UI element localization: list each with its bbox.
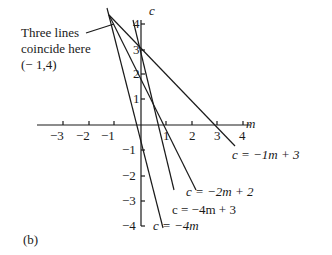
line-label-c-neg2m-plus2: c = −2m + 2: [186, 185, 253, 199]
y-axis-label: c: [149, 4, 155, 18]
line-label-c-neg4m: c = −4m: [153, 219, 199, 233]
y-tick-label: 2: [133, 67, 140, 81]
line-c-neg1m-plus3: [109, 15, 235, 146]
y-tick-label: −3: [122, 194, 136, 208]
y-tick-label: −2: [122, 169, 136, 183]
panel-label: (b): [23, 233, 38, 247]
x-tick-label: 3: [214, 129, 221, 143]
y-tick-label: 3: [133, 43, 140, 57]
annotation-leader: [86, 24, 114, 33]
y-tick-label: 4: [133, 17, 140, 31]
x-axis-label: m: [246, 117, 255, 131]
y-tick-label: 1: [133, 92, 140, 106]
annotation-line-3: (− 1,4): [21, 58, 57, 72]
x-tick-label: −2: [76, 129, 90, 143]
line-label-c-neg4m-plus3: c = −4m + 3: [172, 203, 236, 217]
x-tick-label: 2: [189, 129, 196, 143]
line-label-c-neg1m-plus3: c = −1m + 3: [232, 148, 299, 162]
annotation-line-2: coincide here: [21, 42, 91, 56]
annotation-line-1: Three lines: [21, 26, 79, 40]
y-tick-label: −4: [122, 219, 136, 233]
x-tick-label: 1: [163, 129, 170, 143]
x-tick-label: −1: [101, 129, 115, 143]
y-tick-label: −1: [122, 143, 136, 157]
x-tick-label: −3: [50, 129, 64, 143]
x-tick-label: 4: [239, 129, 246, 143]
